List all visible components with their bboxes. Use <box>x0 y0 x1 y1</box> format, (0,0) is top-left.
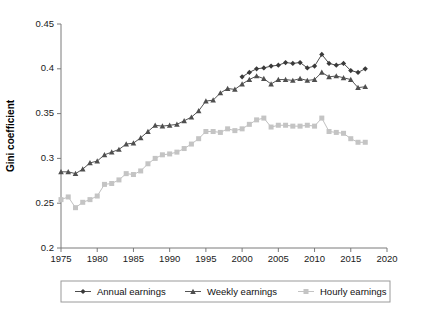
data-point-marker <box>109 181 114 186</box>
data-point-marker <box>153 156 158 161</box>
series-annual-earnings <box>240 52 368 80</box>
data-point-marker <box>283 123 288 128</box>
data-point-marker <box>232 128 237 133</box>
x-tick-label: 2020 <box>376 253 397 264</box>
series-hourly-earnings <box>59 116 368 211</box>
data-point-marker <box>218 90 224 95</box>
data-point-marker <box>196 136 201 141</box>
data-point-marker <box>138 168 143 173</box>
y-tick-label: 0.25 <box>36 197 55 208</box>
data-point-marker <box>225 126 230 131</box>
x-tick-label: 2000 <box>232 253 253 264</box>
data-point-marker <box>305 123 310 128</box>
data-point-marker <box>240 74 245 79</box>
legend-label: Hourly earnings <box>320 286 387 297</box>
data-point-marker <box>247 122 252 127</box>
data-point-marker <box>167 151 172 156</box>
data-point-marker <box>298 124 303 129</box>
data-point-marker <box>276 63 281 68</box>
data-point-marker <box>66 194 71 199</box>
data-point-marker <box>218 130 223 135</box>
data-point-marker <box>254 66 259 71</box>
data-point-marker <box>261 65 266 70</box>
data-point-marker <box>319 116 324 121</box>
data-point-marker <box>240 126 245 131</box>
data-point-marker <box>290 124 295 129</box>
x-tick-label: 2015 <box>340 253 361 264</box>
data-point-marker <box>356 140 361 145</box>
data-point-marker <box>87 197 92 202</box>
data-point-marker <box>334 63 339 68</box>
axes: 0.20.250.30.350.40.451975198019851990199… <box>5 18 398 265</box>
data-point-marker <box>363 66 368 71</box>
chart-figure: 0.20.250.30.350.40.451975198019851990199… <box>0 0 423 318</box>
data-point-marker <box>283 60 288 65</box>
data-point-marker <box>124 171 129 176</box>
data-point-marker <box>59 197 64 202</box>
data-point-marker <box>211 129 216 134</box>
legend-sample-marker <box>304 289 309 294</box>
data-series-layer <box>58 52 368 210</box>
data-point-marker <box>73 205 78 210</box>
x-tick-label: 1990 <box>159 253 180 264</box>
data-point-marker <box>334 130 339 135</box>
series-line <box>61 72 365 173</box>
data-point-marker <box>327 129 332 134</box>
data-point-marker <box>268 64 273 69</box>
data-point-marker <box>297 76 303 81</box>
data-point-marker <box>254 73 260 78</box>
y-tick-label: 0.3 <box>41 152 54 163</box>
data-point-marker <box>247 70 252 75</box>
data-point-marker <box>174 150 179 155</box>
data-point-marker <box>95 194 100 199</box>
data-point-marker <box>247 77 253 82</box>
data-point-marker <box>181 118 187 123</box>
chart-legend: Annual earningsWeekly earningsHourly ear… <box>61 281 390 302</box>
legend-label: Annual earnings <box>97 286 166 297</box>
series-line <box>242 54 365 76</box>
data-point-marker <box>348 136 353 141</box>
data-point-marker <box>203 129 208 134</box>
data-point-marker <box>290 61 295 66</box>
gini-coefficient-line-chart: 0.20.250.30.350.40.451975198019851990199… <box>0 0 423 318</box>
x-tick-label: 1975 <box>50 253 71 264</box>
data-point-marker <box>189 142 194 147</box>
data-point-marker <box>269 125 274 130</box>
y-tick-label: 0.4 <box>41 62 54 73</box>
data-point-marker <box>341 131 346 136</box>
data-point-marker <box>312 64 317 69</box>
y-tick-label: 0.2 <box>41 242 54 253</box>
x-tick-label: 2010 <box>304 253 325 264</box>
data-point-marker <box>276 123 281 128</box>
data-point-marker <box>261 116 266 121</box>
data-point-marker <box>160 152 165 157</box>
data-point-marker <box>102 182 107 187</box>
y-axis-title: Gini coefficient <box>5 99 16 172</box>
data-point-marker <box>145 161 150 166</box>
data-point-marker <box>80 200 85 205</box>
data-point-marker <box>319 70 325 75</box>
data-point-marker <box>254 117 259 122</box>
x-tick-label: 1985 <box>123 253 144 264</box>
data-point-marker <box>363 140 368 145</box>
x-tick-label: 2005 <box>268 253 289 264</box>
data-point-marker <box>355 70 360 75</box>
y-tick-label: 0.45 <box>36 18 55 29</box>
series-weekly-earnings <box>58 70 368 176</box>
legend-label: Weekly earnings <box>207 286 277 297</box>
data-point-marker <box>182 146 187 151</box>
data-point-marker <box>239 81 245 86</box>
data-point-marker <box>312 124 317 129</box>
x-tick-label: 1980 <box>87 253 108 264</box>
x-tick-label: 1995 <box>195 253 216 264</box>
y-tick-label: 0.35 <box>36 107 55 118</box>
data-point-marker <box>116 177 121 182</box>
data-point-marker <box>131 172 136 177</box>
